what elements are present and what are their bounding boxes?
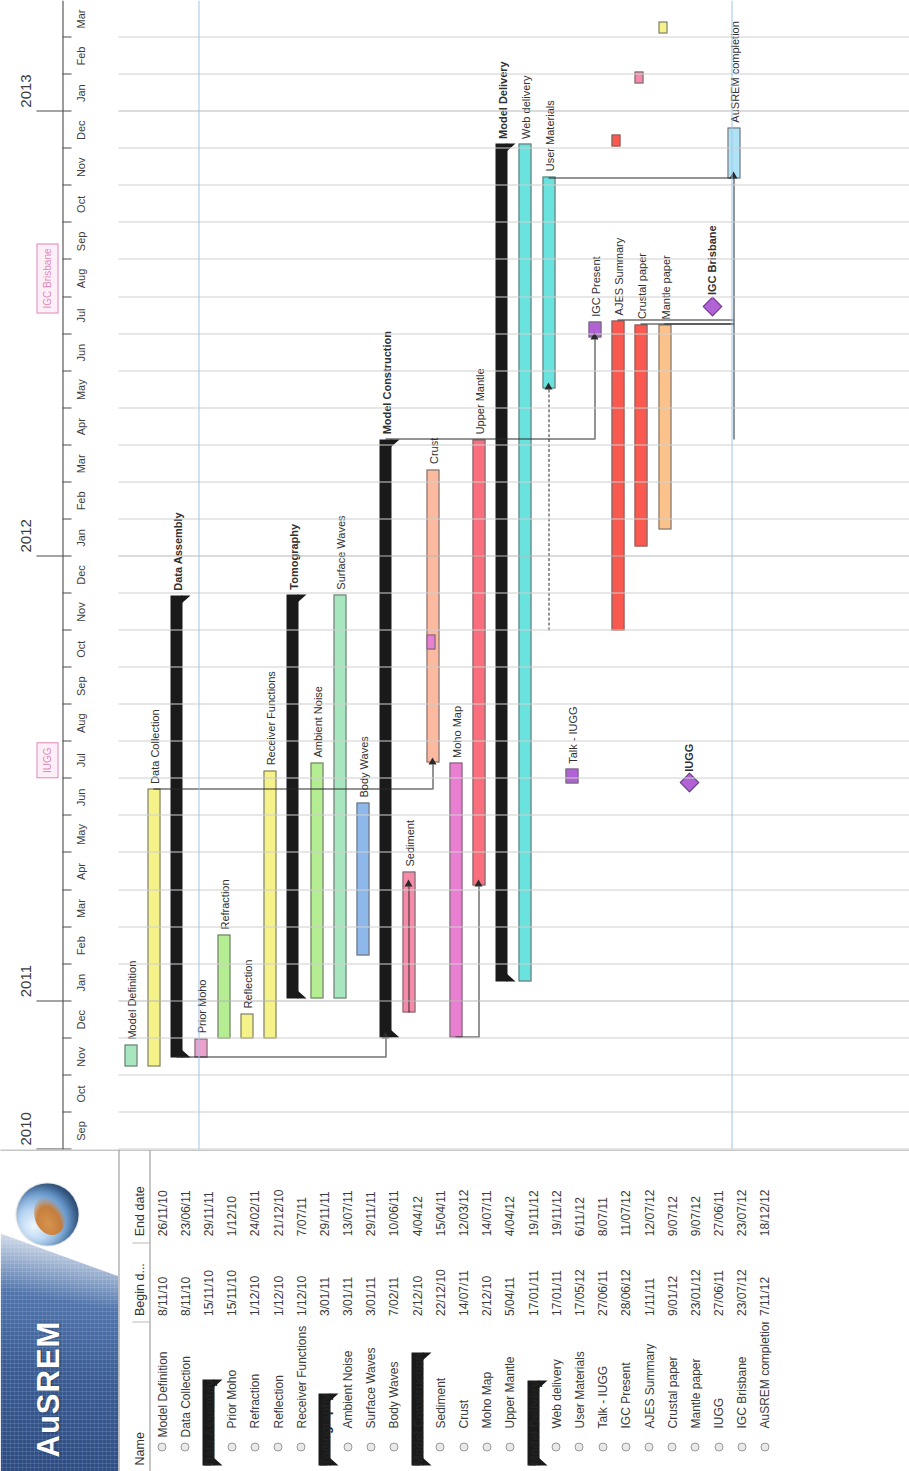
gantt-stub-marker[interactable] bbox=[658, 21, 667, 33]
table-row[interactable]: Web delivery17/01/1119/11/12 bbox=[544, 1150, 567, 1471]
task-name-cell[interactable]: Mantle paper bbox=[688, 1321, 702, 1471]
table-row[interactable]: Sediment22/12/1015/04/11 bbox=[428, 1150, 451, 1471]
gantt-bar[interactable] bbox=[263, 770, 276, 1038]
gantt-bar[interactable] bbox=[124, 1044, 137, 1066]
task-name-cell[interactable]: Reflection bbox=[271, 1321, 285, 1471]
table-row[interactable]: User Materials17/05/126/11/12 bbox=[567, 1150, 590, 1471]
task-name-cell[interactable]: Model Construction bbox=[412, 1321, 421, 1471]
table-row[interactable]: Receiver Functions1/12/107/07/11 bbox=[289, 1150, 312, 1471]
gantt-bar[interactable] bbox=[333, 594, 346, 998]
table-row[interactable]: AuSREM completion7/11/1218/12/12 bbox=[753, 1150, 776, 1471]
task-name-cell[interactable]: Model Delivery bbox=[528, 1321, 537, 1471]
table-row[interactable]: Talk - IUGG27/06/118/07/11 bbox=[591, 1150, 614, 1471]
axis-month-label: Aug bbox=[74, 268, 86, 288]
gantt-bar[interactable] bbox=[147, 788, 160, 1066]
task-table-body: Model Definition8/11/1026/11/10Data Coll… bbox=[150, 1150, 776, 1471]
axis-event-marker[interactable]: IGC Brisbane bbox=[36, 243, 58, 313]
task-name-cell[interactable]: Crustal paper bbox=[665, 1321, 679, 1471]
task-name-cell[interactable]: Data Assembly bbox=[203, 1321, 212, 1471]
table-row[interactable]: IGC Present28/06/1211/07/12 bbox=[614, 1150, 637, 1471]
column-header-end-date[interactable]: End date bbox=[132, 1150, 149, 1242]
table-row[interactable]: Tomography3/01/1129/11/11 bbox=[312, 1150, 335, 1471]
table-row[interactable]: Prior Moho15/11/101/12/10 bbox=[220, 1150, 243, 1471]
table-row[interactable]: Surface Waves3/01/1129/11/11 bbox=[359, 1150, 382, 1471]
table-row[interactable]: IUGG27/06/1127/06/11 bbox=[707, 1150, 730, 1471]
task-name-cell[interactable]: Receiver Functions bbox=[294, 1321, 308, 1471]
begin-date-cell: 17/05/12 bbox=[572, 1242, 586, 1322]
gantt-bar[interactable] bbox=[542, 176, 555, 388]
task-name-cell[interactable]: User Materials bbox=[572, 1321, 586, 1471]
table-row[interactable]: Crust14/07/1112/03/12 bbox=[451, 1150, 474, 1471]
summary-bar[interactable] bbox=[170, 595, 182, 1057]
gantt-bar[interactable] bbox=[449, 762, 462, 1036]
task-name-cell[interactable]: Upper Mantle bbox=[502, 1321, 516, 1471]
task-name-cell[interactable]: IUGG bbox=[711, 1321, 725, 1471]
axis-month-label: Feb bbox=[74, 936, 86, 955]
table-row[interactable]: Crustal paper9/01/129/07/12 bbox=[660, 1150, 683, 1471]
gantt-bar[interactable] bbox=[426, 469, 439, 763]
summary-bar[interactable] bbox=[286, 594, 298, 998]
task-name-cell[interactable]: Prior Moho bbox=[224, 1321, 238, 1471]
table-row[interactable]: Upper Mantle5/04/114/04/12 bbox=[498, 1150, 521, 1471]
task-name-cell[interactable]: Model Definition bbox=[155, 1321, 169, 1471]
task-name-cell[interactable]: Surface Waves bbox=[363, 1321, 377, 1471]
milestone-diamond[interactable] bbox=[679, 772, 699, 792]
begin-date-cell: 15/11/10 bbox=[224, 1242, 238, 1322]
table-row[interactable]: Data Assembly15/11/1029/11/11 bbox=[196, 1150, 219, 1471]
gantt-bar[interactable] bbox=[727, 127, 740, 178]
axis-month-tick bbox=[62, 740, 71, 741]
axis-year-label: 2010 bbox=[16, 1112, 33, 1145]
gantt-bar[interactable] bbox=[240, 1013, 253, 1038]
table-row[interactable]: Body Waves7/02/1110/06/11 bbox=[382, 1150, 405, 1471]
task-name-cell[interactable]: Ambient Noise bbox=[340, 1321, 354, 1471]
table-row[interactable]: AJES Summary1/11/1112/07/12 bbox=[637, 1150, 660, 1471]
gantt-bar[interactable] bbox=[356, 802, 369, 955]
task-name-cell[interactable]: Data Collection bbox=[178, 1321, 192, 1471]
table-row[interactable]: IGC Brisbane23/07/1223/07/12 bbox=[730, 1150, 753, 1471]
table-row[interactable]: Mantle paper23/01/129/07/12 bbox=[683, 1150, 706, 1471]
task-name-cell[interactable]: IGC Present bbox=[618, 1321, 632, 1471]
gantt-bar[interactable] bbox=[518, 143, 531, 981]
task-name-cell[interactable]: Tomography bbox=[319, 1321, 328, 1471]
axis-month-tick bbox=[62, 73, 71, 74]
gantt-bar[interactable] bbox=[658, 324, 671, 529]
task-name-cell[interactable]: Sediment bbox=[433, 1321, 447, 1471]
axis-event-marker[interactable]: IUGG bbox=[36, 742, 58, 778]
gantt-bar[interactable] bbox=[565, 768, 578, 783]
table-row[interactable]: Model Delivery17/01/1119/11/12 bbox=[521, 1150, 544, 1471]
gantt-stub-marker[interactable] bbox=[611, 134, 620, 146]
task-name-cell[interactable]: AuSREM completion bbox=[757, 1321, 771, 1471]
summary-bar[interactable] bbox=[495, 143, 507, 981]
task-name-cell[interactable]: Refraction bbox=[247, 1321, 261, 1471]
chart-gridline bbox=[118, 221, 909, 222]
task-name-cell[interactable]: IGC Brisbane bbox=[734, 1321, 748, 1471]
gantt-bar[interactable] bbox=[194, 1038, 207, 1058]
gantt-bar[interactable] bbox=[611, 320, 624, 630]
column-header-name[interactable]: Name bbox=[132, 1321, 149, 1471]
gantt-stub-marker[interactable] bbox=[426, 634, 435, 649]
table-row[interactable]: Model Definition8/11/1026/11/10 bbox=[150, 1150, 173, 1471]
table-row[interactable]: Data Collection8/11/1023/06/11 bbox=[173, 1150, 196, 1471]
axis-month-tick bbox=[62, 851, 71, 852]
gantt-bar[interactable] bbox=[472, 439, 485, 885]
table-row[interactable]: Refraction1/12/1024/02/11 bbox=[243, 1150, 266, 1471]
gantt-bar[interactable] bbox=[217, 934, 230, 1038]
gantt-bar[interactable] bbox=[634, 324, 647, 546]
summary-bar[interactable] bbox=[379, 439, 391, 1037]
task-name-cell[interactable]: AJES Summary bbox=[642, 1321, 656, 1471]
task-bullet-icon bbox=[644, 1442, 653, 1451]
task-name-cell[interactable]: Talk - IUGG bbox=[595, 1321, 609, 1471]
gantt-bar-label: AJES Summary bbox=[612, 237, 624, 315]
task-name-cell[interactable]: Crust bbox=[456, 1321, 470, 1471]
task-bullet-icon bbox=[667, 1442, 676, 1451]
milestone-diamond[interactable] bbox=[702, 296, 722, 316]
axis-month-tick bbox=[62, 518, 71, 519]
column-header-begin-date[interactable]: Begin d... bbox=[132, 1242, 149, 1322]
task-name-cell[interactable]: Web delivery bbox=[549, 1321, 563, 1471]
table-row[interactable]: Moho Map2/12/1014/07/11 bbox=[475, 1150, 498, 1471]
table-row[interactable]: Model Construction2/12/104/04/12 bbox=[405, 1150, 428, 1471]
table-row[interactable]: Reflection1/12/1021/12/10 bbox=[266, 1150, 289, 1471]
task-name-cell[interactable]: Moho Map bbox=[479, 1321, 493, 1471]
table-row[interactable]: Ambient Noise3/01/1113/07/11 bbox=[336, 1150, 359, 1471]
task-name-cell[interactable]: Body Waves bbox=[386, 1321, 400, 1471]
